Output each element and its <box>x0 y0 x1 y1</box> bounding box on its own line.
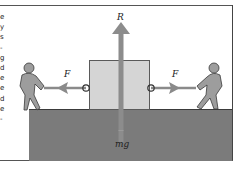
right-force-arrow-icon <box>148 82 196 94</box>
left-force-arrow-icon <box>44 82 89 94</box>
reaction-arrow-icon <box>112 22 130 143</box>
right-force-label: F <box>172 69 178 79</box>
left-person-icon <box>20 63 44 110</box>
weight-label: mg <box>115 139 129 149</box>
left-force-label: F <box>64 69 70 79</box>
reaction-label: R <box>117 12 124 22</box>
right-person-icon <box>197 63 222 109</box>
